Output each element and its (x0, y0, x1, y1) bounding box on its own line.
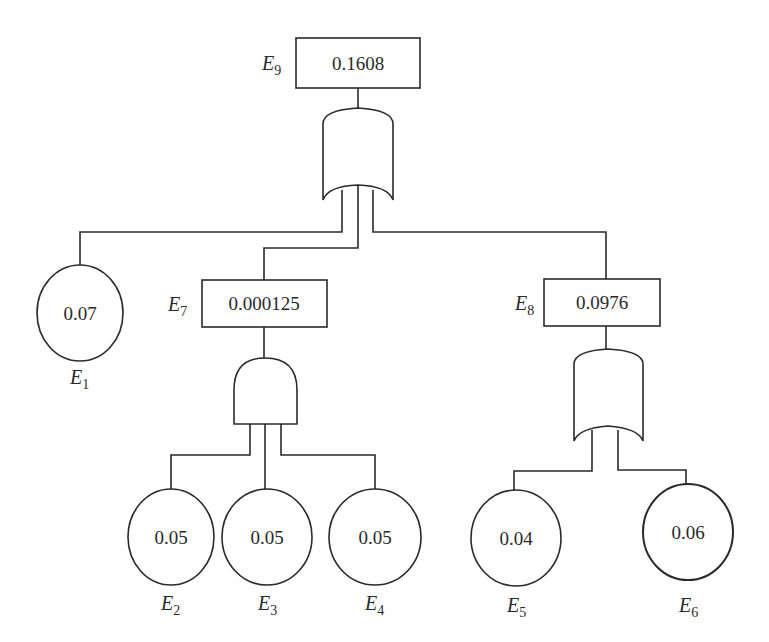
connector-gate-e8 (373, 190, 606, 279)
or-gate-icon (574, 349, 643, 441)
basic-event-e4: 0.05 E4 (329, 489, 421, 618)
event-value: 0.07 (63, 303, 96, 324)
event-label: E7 (167, 293, 187, 319)
and-gate-icon (234, 358, 297, 424)
event-label: E3 (257, 592, 277, 618)
connector-and-e4 (281, 424, 375, 489)
event-label: E4 (364, 592, 384, 618)
fault-tree-diagram: 0.1608 E9 0.07 E1 0.000125 E7 0.0976 E8 … (0, 0, 769, 642)
basic-event-e3: 0.05 E3 (222, 489, 312, 618)
event-label: E9 (261, 52, 281, 78)
connector-and-e2 (171, 424, 250, 489)
event-label: E1 (69, 366, 89, 392)
event-value: 0.05 (250, 527, 283, 548)
connector-or-e5 (514, 430, 592, 490)
event-label: E6 (678, 594, 698, 620)
event-label: E2 (160, 592, 180, 618)
event-value: 0.1608 (332, 53, 384, 74)
intermediate-event-e7: 0.000125 E7 (167, 280, 327, 327)
event-value: 0.05 (358, 527, 391, 548)
event-value: 0.06 (671, 522, 704, 543)
intermediate-event-e8: 0.0976 E8 (514, 279, 660, 326)
basic-event-e2: 0.05 E2 (128, 489, 214, 618)
basic-event-e6: 0.06 E6 (643, 484, 733, 620)
event-label: E5 (506, 594, 526, 620)
event-value: 0.04 (499, 528, 533, 549)
connector-gate-e1 (80, 190, 342, 265)
event-value: 0.0976 (576, 292, 628, 313)
connector-gate-e7 (264, 186, 358, 280)
event-value: 0.05 (154, 527, 187, 548)
event-label: E8 (514, 292, 534, 318)
connector-or-e6 (618, 430, 686, 484)
event-value: 0.000125 (228, 293, 299, 314)
basic-event-e1: 0.07 E1 (37, 265, 123, 392)
basic-event-e5: 0.04 E5 (471, 490, 561, 620)
top-event-e9: 0.1608 E9 (261, 38, 420, 88)
